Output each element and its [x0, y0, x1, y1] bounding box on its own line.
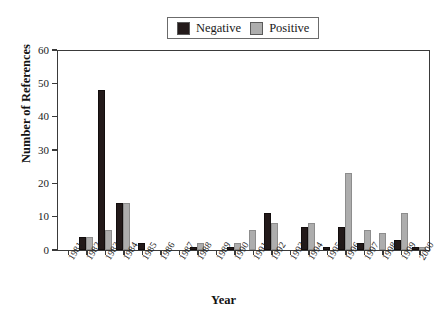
x-axis: 1981198219831984198519861987198819891990…	[59, 251, 429, 297]
y-tick-label: 10	[38, 211, 52, 222]
y-tick-label: 30	[38, 145, 52, 156]
bars-layer	[59, 50, 429, 250]
y-tick-label: 20	[38, 178, 52, 189]
bar-group	[281, 50, 300, 250]
bar-group	[114, 50, 133, 250]
y-tick-label: 0	[44, 245, 53, 256]
bar-group	[392, 50, 411, 250]
bar-group	[244, 50, 263, 250]
bar-group	[373, 50, 392, 250]
bar-group	[410, 50, 429, 250]
bar-group	[170, 50, 189, 250]
bar-group	[336, 50, 355, 250]
legend-swatch-positive-icon	[250, 22, 263, 35]
bar-positive-1996	[345, 173, 352, 250]
legend-label-positive: Positive	[269, 22, 309, 35]
bar-group	[262, 50, 281, 250]
bar-negative-1983	[98, 90, 105, 250]
y-tick-label: 60	[38, 45, 52, 56]
chart-legend: Negative Positive	[167, 17, 319, 39]
bar-group	[151, 50, 170, 250]
y-tick-label: 40	[38, 111, 52, 122]
bar-group	[299, 50, 318, 250]
bar-group	[133, 50, 152, 250]
bar-group	[188, 50, 207, 250]
bar-group	[96, 50, 115, 250]
bar-group	[355, 50, 374, 250]
legend-entry-negative: Negative	[177, 22, 241, 35]
legend-swatch-negative-icon	[177, 22, 190, 35]
bar-group	[318, 50, 337, 250]
bar-group	[59, 50, 78, 250]
y-tick-label: 50	[38, 78, 52, 89]
bar-chart: Negative Positive 0102030405060 Number o…	[0, 0, 447, 316]
y-axis-title: Number of References	[19, 14, 34, 194]
bar-group	[77, 50, 96, 250]
bar-group	[225, 50, 244, 250]
x-axis-title: Year	[0, 293, 447, 308]
legend-entry-positive: Positive	[250, 22, 309, 35]
legend-label-negative: Negative	[196, 22, 241, 35]
bar-group	[207, 50, 226, 250]
